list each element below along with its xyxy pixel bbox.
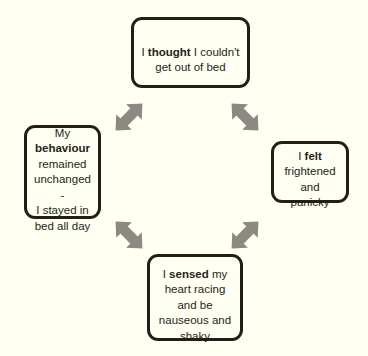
behaviour-node-text: My behaviour remained unchanged - I stay… (33, 110, 92, 234)
felt-node-text: I felt frightened and panicky (280, 133, 340, 211)
felt-suffix: frightened and panicky (284, 165, 335, 208)
sensed-node-text: I sensed my heart racing and be nauseous… (159, 251, 231, 344)
felt-keyword: felt (305, 150, 322, 162)
behaviour-node: My behaviour remained unchanged - I stay… (24, 125, 101, 219)
behaviour-suffix: remained unchanged - I stayed in bed all… (34, 158, 91, 232)
arrow-thought-felt-icon (222, 94, 268, 140)
thought-keyword: thought (148, 46, 191, 58)
arrow-felt-sensed-icon (222, 212, 268, 258)
sensed-node: I sensed my heart racing and be nauseous… (147, 254, 243, 341)
thought-node-text: I thought I couldn't get out of bed (141, 29, 239, 76)
thought-node: I thought I couldn't get out of bed (131, 17, 250, 88)
arrow-sensed-behaviour-icon (106, 212, 152, 258)
behaviour-prefix: My (55, 127, 70, 139)
felt-node: I felt frightened and panicky (271, 141, 349, 203)
behaviour-keyword: behaviour (35, 142, 90, 154)
cbt-cycle-diagram: I thought I couldn't get out of bed I fe… (0, 0, 368, 356)
sensed-keyword: sensed (169, 268, 209, 280)
arrow-behaviour-thought-icon (106, 94, 152, 140)
